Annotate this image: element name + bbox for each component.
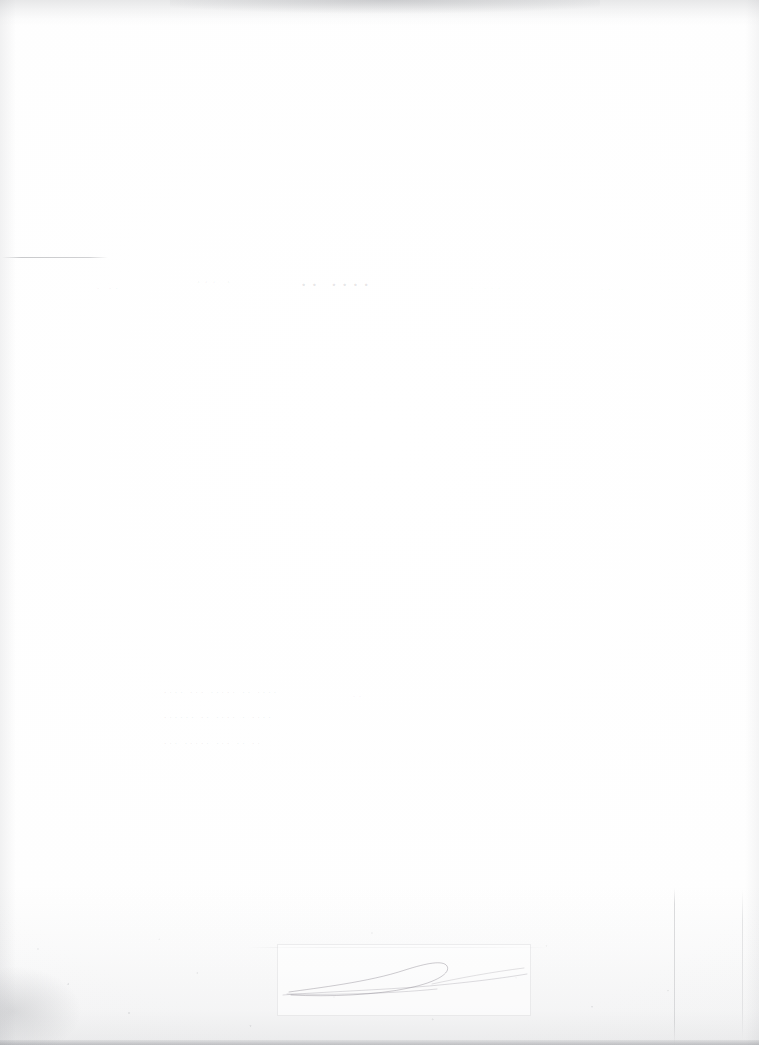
- body-line-1: ···· ··· ····· ·· ····: [163, 684, 423, 700]
- header-rule: [2, 257, 108, 258]
- vertical-crease-right: [674, 888, 675, 1045]
- header-far-right-fragment: ·· ·: [600, 282, 627, 297]
- body-line-3: ··· ····· ··· ·· ··: [163, 735, 423, 751]
- paper-surface: [0, 0, 759, 1045]
- body-right-speck: ··: [352, 689, 364, 704]
- header-left-fragment: · ··: [96, 280, 121, 296]
- vertical-crease-far-right: [742, 890, 743, 1040]
- scanned-document-page: · ·· ··· · ·· ···· · ··· ·· · ···· ··· ·…: [0, 0, 759, 1045]
- left-gutter-shadow: [0, 0, 16, 1045]
- header-right-fragment: · ···: [470, 281, 504, 296]
- body-line-2: ······ ·· ···· · ····: [163, 709, 423, 725]
- top-edge-smudge: [0, 0, 759, 26]
- header-title-fragment: ·· ····: [300, 272, 373, 298]
- bottom-left-blotch: [0, 960, 130, 1045]
- body-text-block: ···· ··· ····· ·· ···· ······ ·· ···· · …: [163, 684, 423, 751]
- right-gutter-shadow: [745, 0, 759, 1045]
- signature-box: [277, 944, 531, 1016]
- header-mid-fragment: ··· ·: [196, 274, 234, 291]
